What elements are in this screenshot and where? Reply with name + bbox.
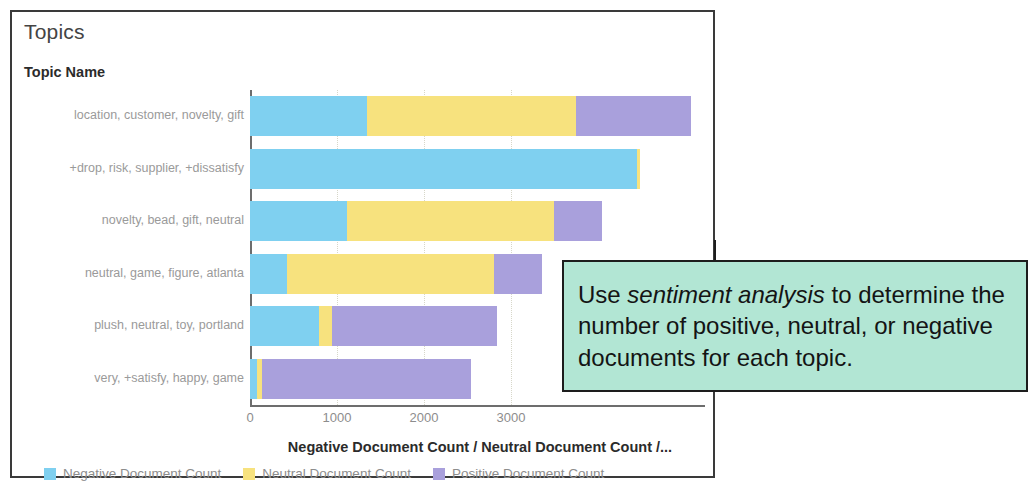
bar-segment-negative[interactable] (250, 149, 637, 189)
category-label: very, +satisfy, happy, game (18, 371, 250, 385)
x-tick-label: 0 (246, 410, 253, 425)
category-axis-labels: location, customer, novelty, gift+drop, … (12, 90, 250, 405)
y-axis-line (250, 90, 252, 405)
gridline (511, 90, 513, 405)
callout-leader-line (714, 240, 716, 262)
callout-text: Use sentiment analysis to determine the … (578, 279, 1026, 373)
gridline (337, 90, 339, 405)
bar-segment-neutral[interactable] (367, 96, 576, 136)
legend-item[interactable]: Negative Document Count (44, 466, 221, 481)
bar-row[interactable] (250, 96, 691, 136)
bar-segment-positive[interactable] (494, 254, 542, 294)
category-label: +drop, risk, supplier, +dissatisfy (18, 161, 250, 175)
x-axis-title: Negative Document Count / Neutral Docume… (250, 439, 710, 455)
category-label: location, customer, novelty, gift (18, 108, 250, 122)
category-label: plush, neutral, toy, portland (18, 318, 250, 332)
bar-segment-negative[interactable] (250, 254, 287, 294)
bar-row[interactable] (250, 149, 640, 189)
category-label: neutral, game, figure, atlanta (18, 266, 250, 280)
bar-segment-positive[interactable] (576, 96, 691, 136)
page-title: Topics (24, 20, 85, 44)
topics-report-panel: Topics Topic Name location, customer, no… (10, 10, 715, 478)
callout-box: Use sentiment analysis to determine the … (562, 260, 1028, 392)
callout-emphasis: sentiment analysis (627, 281, 824, 308)
bar-row[interactable] (250, 359, 471, 399)
bar-segment-neutral[interactable] (347, 201, 554, 241)
gridline (424, 90, 426, 405)
x-axis-line (250, 405, 705, 407)
column-header-topic-name: Topic Name (24, 64, 105, 80)
legend-swatch-icon (44, 468, 56, 480)
legend-label: Neutral Document Count (262, 466, 411, 481)
bar-segment-negative[interactable] (250, 306, 319, 346)
bar-segment-positive[interactable] (262, 359, 471, 399)
legend-swatch-icon (433, 468, 445, 480)
bar-segment-neutral[interactable] (637, 149, 640, 189)
bar-segment-negative[interactable] (250, 201, 347, 241)
legend-label: Positive Document Count (452, 466, 604, 481)
bar-row[interactable] (250, 306, 497, 346)
bar-segment-negative[interactable] (250, 96, 367, 136)
bar-segment-neutral[interactable] (319, 306, 332, 346)
x-tick-label: 2000 (410, 410, 439, 425)
bar-row[interactable] (250, 254, 542, 294)
x-tick-label: 3000 (497, 410, 526, 425)
bar-segment-positive[interactable] (554, 201, 602, 241)
bar-segment-neutral[interactable] (287, 254, 494, 294)
x-tick-label: 1000 (323, 410, 352, 425)
legend-item[interactable]: Neutral Document Count (243, 466, 411, 481)
category-label: novelty, bead, gift, neutral (18, 213, 250, 227)
legend-swatch-icon (243, 468, 255, 480)
bar-row[interactable] (250, 201, 602, 241)
chart-legend: Negative Document CountNeutral Document … (44, 466, 604, 481)
bar-segment-negative[interactable] (250, 359, 257, 399)
legend-label: Negative Document Count (63, 466, 221, 481)
bar-segment-positive[interactable] (332, 306, 497, 346)
legend-item[interactable]: Positive Document Count (433, 466, 604, 481)
